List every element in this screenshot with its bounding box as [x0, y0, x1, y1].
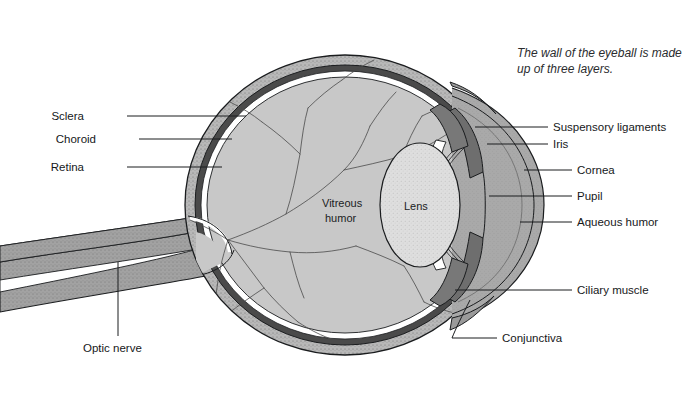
note-line-2: up of three layers.	[517, 62, 613, 76]
label-lens: Lens	[404, 200, 428, 212]
note-line-1: The wall of the eyeball is made	[517, 46, 682, 60]
label-ciliary-muscle: Ciliary muscle	[577, 284, 649, 296]
label-cornea: Cornea	[577, 164, 615, 176]
label-aqueous-humor: Aqueous humor	[577, 216, 658, 228]
label-iris: Iris	[553, 138, 569, 150]
label-optic-nerve: Optic nerve	[83, 342, 142, 354]
eye-diagram-svg: Sclera Choroid Retina Suspensory ligamen…	[0, 0, 690, 399]
label-conjunctiva: Conjunctiva	[502, 332, 563, 344]
label-pupil: Pupil	[577, 190, 603, 202]
optic-nerve-structure	[0, 218, 206, 312]
eye-diagram-figure: Sclera Choroid Retina Suspensory ligamen…	[0, 0, 690, 399]
label-vitreous-humor-line1: Vitreous	[322, 197, 363, 209]
label-vitreous-humor-line2: humor	[325, 212, 357, 224]
label-sclera: Sclera	[51, 110, 84, 122]
label-retina: Retina	[51, 161, 85, 173]
label-suspensory-ligaments: Suspensory ligaments	[553, 121, 666, 133]
label-choroid: Choroid	[56, 133, 96, 145]
